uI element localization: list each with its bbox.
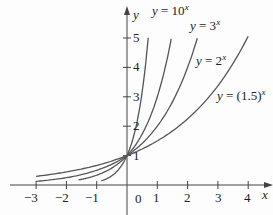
x-tick-label: −2 [55, 191, 69, 204]
curve-10 [101, 38, 148, 181]
y-tick-label: 1 [133, 149, 140, 162]
x-tick-label: 2 [184, 191, 191, 204]
y-tick-label: 2 [133, 119, 140, 132]
leader-line [153, 17, 165, 35]
x-tick-label: −1 [85, 191, 99, 204]
y-tick-label: 4 [133, 60, 140, 73]
label-1-5x: y = (1.5)x [217, 88, 266, 102]
origin-label: 0 [135, 192, 142, 205]
y-tick-label: 3 [133, 90, 140, 103]
label-3x: y = 3x [190, 18, 220, 32]
y-tick-label: 5 [133, 31, 140, 44]
x-tick-label: 1 [153, 191, 160, 204]
label-2x: y = 2x [196, 53, 226, 67]
exponential-functions-chart: −3−2−112340xy12345y = 10xy = 3xy = 2xy =… [0, 0, 273, 215]
leader-line [176, 27, 188, 35]
y-axis-label: y [133, 8, 139, 21]
x-axis-label: x [262, 188, 268, 201]
x-tick-label: −3 [24, 191, 38, 204]
y-axis-arrow-icon [124, 6, 130, 15]
x-tick-label: 4 [244, 191, 251, 204]
x-tick-label: 3 [215, 191, 222, 204]
label-10x: y = 10x [152, 3, 189, 17]
